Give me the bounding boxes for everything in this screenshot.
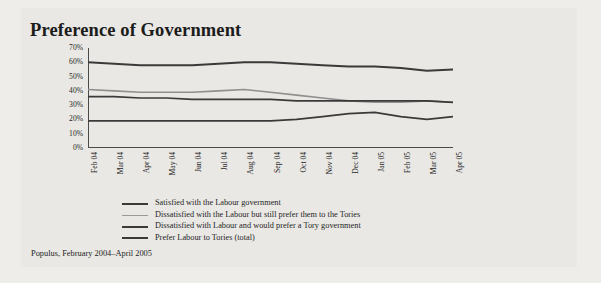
series-line-4: [88, 112, 453, 121]
legend-label: Dissatisfied with Labour and would prefe…: [155, 222, 361, 230]
legend-item: Satisfied with the Labour government: [122, 198, 462, 209]
x-tick-label: Sep 04: [274, 152, 282, 173]
y-tick-label: 60%: [43, 58, 83, 66]
y-tick-label: 30%: [43, 101, 83, 109]
x-tick-label: Nov 04: [326, 152, 334, 175]
legend-item: Dissatisfied with the Labour but still p…: [122, 210, 462, 221]
x-tick-label: Apr 05: [456, 152, 464, 173]
legend-label: Satisfied with the Labour government: [155, 199, 281, 207]
page-title: Preference of Government: [30, 20, 241, 41]
chart-svg: [88, 48, 453, 148]
legend-swatch-icon: [122, 226, 148, 228]
x-tick-label: Mar 05: [430, 152, 438, 174]
legend-item: Dissatisfied with Labour and would prefe…: [122, 221, 462, 232]
chart-legend: Satisfied with the Labour governmentDiss…: [122, 198, 462, 244]
x-tick-label: Feb 05: [404, 152, 412, 173]
x-tick-label: Dec 04: [352, 152, 360, 174]
legend-swatch-icon: [122, 215, 148, 216]
series-line-1: [88, 62, 453, 71]
x-tick-label: May 04: [169, 152, 177, 175]
x-tick-label: Feb 04: [91, 152, 99, 173]
x-tick-label: Oct 04: [300, 152, 308, 172]
y-tick-label: 20%: [43, 116, 83, 124]
legend-label: Dissatisfied with the Labour but still p…: [155, 211, 360, 219]
legend-label: Prefer Labour to Tories (total): [155, 234, 255, 242]
y-tick-label: 70%: [43, 44, 83, 52]
x-tick-label: Aug 04: [247, 152, 255, 175]
y-tick-label: 50%: [43, 73, 83, 81]
y-tick-label: 40%: [43, 87, 83, 95]
y-tick-label: 0%: [43, 144, 83, 152]
chart-figure: Preference of Government 70%60%50%40%30%…: [0, 0, 601, 283]
legend-swatch-icon: [122, 237, 148, 239]
legend-swatch-icon: [122, 203, 148, 205]
x-tick-label: Jun 04: [195, 152, 203, 172]
x-tick-label: Jul 04: [221, 152, 229, 170]
source-note: Populus, February 2004–April 2005: [31, 249, 152, 258]
plot-area: [88, 48, 453, 148]
x-axis-tick-labels: Feb 04Mar 04Apr 04May 04Jun 04Jul 04Aug …: [88, 152, 453, 192]
y-tick-label: 10%: [43, 130, 83, 138]
series-line-3: [88, 97, 453, 103]
x-tick-label: Apr 04: [143, 152, 151, 173]
legend-item: Prefer Labour to Tories (total): [122, 233, 462, 244]
x-tick-label: Jan 05: [378, 152, 386, 172]
x-tick-label: Mar 04: [117, 152, 125, 174]
